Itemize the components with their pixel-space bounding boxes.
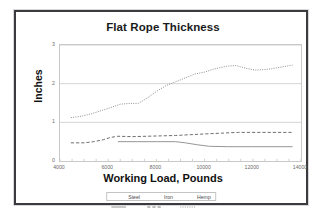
x-tick-label: 4000: [44, 164, 74, 170]
x-tick-label: 14000: [285, 164, 315, 170]
chart-legend: SteelIronHemp: [106, 192, 216, 201]
legend-item-steel[interactable]: Steel: [111, 194, 140, 200]
series-line-iron: [71, 132, 293, 142]
figure-root: Flat Rope Thickness Inches Working Load,…: [0, 0, 323, 215]
x-tick-label: 10000: [189, 164, 219, 170]
legend-item-hemp[interactable]: Hemp: [180, 194, 211, 200]
legend-label: Steel: [128, 194, 140, 200]
y-tick-label: 3: [39, 41, 55, 47]
legend-swatch-icon: [147, 195, 162, 199]
legend-swatch-icon: [180, 195, 195, 199]
x-tick-label: 8000: [140, 164, 170, 170]
x-tick-label: 6000: [92, 164, 122, 170]
x-tick-label: 12000: [237, 164, 267, 170]
plot-canvas: [60, 45, 301, 161]
y-axis-label: Inches: [32, 56, 44, 116]
legend-swatch-icon: [111, 195, 126, 199]
series-line-steel: [118, 142, 293, 147]
legend-label: Iron: [164, 194, 173, 200]
y-tick-label: 1: [39, 118, 55, 124]
x-axis-label: Working Load, Pounds: [16, 172, 310, 184]
chart-title: Flat Rope Thickness: [16, 21, 310, 33]
legend-label: Hemp: [197, 194, 211, 200]
plot-area: [59, 44, 302, 162]
y-tick-label: 0: [39, 157, 55, 163]
series-line-hemp: [71, 65, 293, 118]
legend-item-iron[interactable]: Iron: [147, 194, 173, 200]
chart-frame: Flat Rope Thickness Inches Working Load,…: [14, 10, 308, 205]
